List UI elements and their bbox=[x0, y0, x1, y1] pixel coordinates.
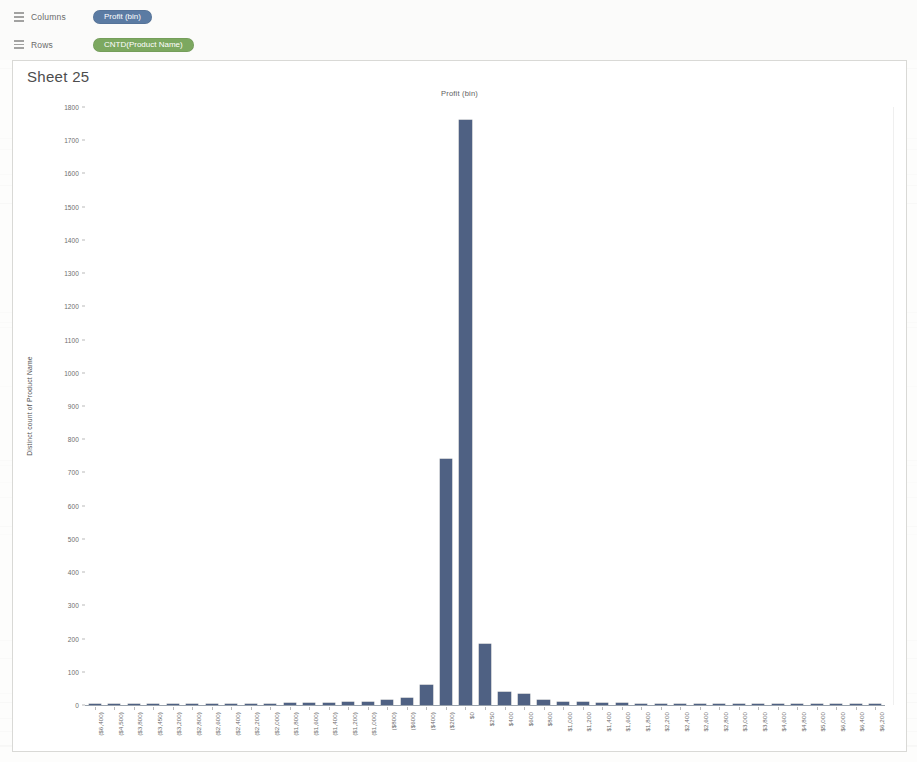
x-axis-tick-label: ($1,800) bbox=[292, 712, 299, 736]
x-axis-tick-label: ($2,000) bbox=[273, 712, 280, 736]
shelf-area: Columns Profit (bin) Rows CNTD(Product N… bbox=[0, 0, 917, 60]
x-axis-tick-mark bbox=[387, 707, 388, 710]
x-axis-tick-mark bbox=[817, 707, 818, 710]
y-axis-tick-label: 1100 bbox=[65, 336, 79, 343]
bar[interactable] bbox=[518, 694, 530, 705]
x-axis-tick-mark bbox=[153, 707, 154, 710]
x-axis-tick-mark bbox=[485, 707, 486, 710]
x-axis-tick-label: $1,600 bbox=[624, 712, 631, 732]
bar[interactable] bbox=[479, 644, 491, 705]
x-axis-tick-label: $2,200 bbox=[663, 712, 670, 732]
x-axis-tick-label: $400 bbox=[507, 712, 514, 726]
x-axis-tick-mark bbox=[700, 707, 701, 710]
x-axis-tick-mark bbox=[329, 707, 330, 710]
x-axis-tick-label: ($1,600) bbox=[312, 712, 319, 736]
y-axis-tick-label: 400 bbox=[68, 569, 79, 576]
x-axis-tick-mark bbox=[758, 707, 759, 710]
x-axis-tick-label: $3,000 bbox=[741, 712, 748, 732]
x-axis-tick-label: $4,800 bbox=[800, 712, 807, 732]
bar[interactable] bbox=[401, 698, 413, 705]
bar[interactable] bbox=[498, 692, 510, 705]
x-axis-tick-label: $2,800 bbox=[722, 712, 729, 732]
x-axis-tick-mark bbox=[446, 707, 447, 710]
x-axis-tick-label: ($2,200) bbox=[253, 712, 260, 736]
x-axis-tick-label: $0 bbox=[468, 712, 475, 719]
bar[interactable] bbox=[420, 685, 432, 705]
x-axis-tick-label: ($2,400) bbox=[234, 712, 241, 736]
y-axis-tick-label: 200 bbox=[68, 635, 79, 642]
x-axis-tick-mark bbox=[95, 707, 96, 710]
y-axis-tick-label: 1000 bbox=[64, 369, 79, 376]
chart-title: Profit (bin) bbox=[13, 89, 906, 98]
x-axis-tick-label: ($2,800) bbox=[195, 712, 202, 736]
y-axis-tick-label: 1300 bbox=[64, 270, 79, 277]
x-axis-tick-label: $1,800 bbox=[644, 712, 651, 732]
x-axis-tick-mark bbox=[544, 707, 545, 710]
x-axis-tick-mark bbox=[563, 707, 564, 710]
x-axis-tick-mark bbox=[797, 707, 798, 710]
x-axis-tick-label: $800 bbox=[546, 712, 553, 726]
x-axis-tick-mark bbox=[192, 707, 193, 710]
bar[interactable] bbox=[459, 120, 471, 705]
x-axis-tick-mark bbox=[368, 707, 369, 710]
y-axis-tick-label: 1800 bbox=[64, 104, 79, 111]
x-axis-tick-mark bbox=[622, 707, 623, 710]
pill-profit-bin[interactable]: Profit (bin) bbox=[93, 10, 152, 24]
x-axis-tick-label: $2,600 bbox=[702, 712, 709, 732]
bar[interactable] bbox=[440, 459, 452, 705]
x-axis-tick-mark bbox=[309, 707, 310, 710]
rows-icon bbox=[14, 40, 24, 50]
x-axis-tick-label: $250 bbox=[488, 712, 495, 726]
x-axis-tick-label: ($1,400) bbox=[331, 712, 338, 736]
x-axis-tick-mark bbox=[114, 707, 115, 710]
x-axis-tick-mark bbox=[680, 707, 681, 710]
x-axis-tick-mark bbox=[856, 707, 857, 710]
worksheet-pane: Sheet 25 Profit (bin) Distinct count of … bbox=[12, 60, 907, 752]
x-axis-tick-label: ($1,200) bbox=[351, 712, 358, 736]
y-axis-tick-label: 1600 bbox=[64, 170, 79, 177]
x-axis-tick-mark bbox=[583, 707, 584, 710]
x-axis[interactable]: ($6,400)($4,500)($3,800)($3,450)($3,200)… bbox=[85, 707, 885, 751]
x-axis-tick-mark bbox=[505, 707, 506, 710]
x-axis-tick-label: $1,000 bbox=[566, 712, 573, 732]
columns-icon bbox=[14, 12, 24, 22]
y-axis-tick-label: 0 bbox=[75, 702, 79, 709]
x-axis-tick-mark bbox=[719, 707, 720, 710]
plot-area bbox=[85, 107, 885, 705]
x-axis-tick-label: $5,000 bbox=[819, 712, 826, 732]
sheet-title: Sheet 25 bbox=[27, 68, 89, 85]
x-axis-tick-label: ($3,200) bbox=[175, 712, 182, 736]
x-axis-tick-mark bbox=[875, 707, 876, 710]
x-axis-tick-label: ($3,450) bbox=[156, 712, 163, 736]
rows-shelf[interactable]: Rows CNTD(Product Name) bbox=[14, 36, 194, 54]
x-axis-tick-label: $6,200 bbox=[878, 712, 885, 732]
y-axis[interactable]: 0100200300400500600700800900100011001200… bbox=[13, 107, 85, 705]
rows-shelf-label: Rows bbox=[31, 40, 93, 50]
columns-shelf[interactable]: Columns Profit (bin) bbox=[14, 8, 152, 26]
x-axis-tick-mark bbox=[173, 707, 174, 710]
x-axis-tick-mark bbox=[407, 707, 408, 710]
x-axis-tick-label: ($2,600) bbox=[214, 712, 221, 736]
x-axis-tick-mark bbox=[778, 707, 779, 710]
x-axis-tick-label: $6,400 bbox=[858, 712, 865, 732]
axis-baseline bbox=[85, 705, 885, 706]
x-axis-tick-mark bbox=[641, 707, 642, 710]
pill-cntd-product-name[interactable]: CNTD(Product Name) bbox=[93, 38, 194, 52]
x-axis-tick-label: ($4,500) bbox=[117, 712, 124, 736]
y-axis-tick-label: 1500 bbox=[64, 203, 79, 210]
x-axis-tick-label: ($6,400) bbox=[97, 712, 104, 736]
y-axis-tick-label: 800 bbox=[68, 436, 79, 443]
y-axis-tick-label: 1700 bbox=[64, 137, 79, 144]
x-axis-tick-mark bbox=[251, 707, 252, 710]
x-axis-tick-label: $3,800 bbox=[761, 712, 768, 732]
x-axis-tick-label: $4,600 bbox=[780, 712, 787, 732]
y-axis-tick-label: 1200 bbox=[64, 303, 79, 310]
x-axis-tick-label: $600 bbox=[527, 712, 534, 726]
y-axis-tick-label: 900 bbox=[68, 403, 79, 410]
x-axis-tick-mark bbox=[602, 707, 603, 710]
y-axis-tick-label: 100 bbox=[68, 668, 79, 675]
y-axis-tick-label: 1400 bbox=[64, 236, 79, 243]
x-axis-tick-mark bbox=[134, 707, 135, 710]
y-axis-tick-label: 500 bbox=[68, 535, 79, 542]
x-axis-tick-mark bbox=[524, 707, 525, 710]
